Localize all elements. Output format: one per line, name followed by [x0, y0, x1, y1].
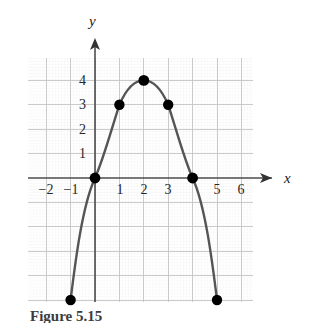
x-tick-label-6: 6: [231, 183, 251, 197]
parabola-figure: y x 4 3 2 1 −2 −1 1 2 3 5 6 Figure 5.15: [0, 0, 310, 323]
y-tick-label-2: 2: [66, 123, 86, 137]
data-point: [138, 75, 149, 86]
x-tick-label-3: 3: [158, 183, 178, 197]
parabola-plot: [0, 0, 310, 323]
data-point: [163, 100, 173, 110]
x-tick-label-1: 1: [110, 183, 130, 197]
data-point: [212, 295, 222, 305]
data-point: [114, 100, 124, 110]
x-tick-label-neg2: −2: [36, 183, 56, 197]
data-point: [187, 173, 198, 184]
data-point: [90, 173, 101, 184]
y-tick-label-1: 1: [66, 147, 86, 161]
grid-panel: [28, 58, 253, 302]
y-tick-label-3: 3: [66, 98, 86, 112]
x-tick-label-5: 5: [207, 183, 227, 197]
x-tick-label-neg1: −1: [61, 183, 81, 197]
x-tick-label-2: 2: [134, 183, 154, 197]
y-axis-label: y: [89, 14, 96, 29]
y-tick-label-4: 4: [66, 74, 86, 88]
x-axis-label: x: [284, 171, 291, 186]
figure-caption: Figure 5.15: [30, 309, 280, 323]
data-point: [65, 295, 75, 305]
